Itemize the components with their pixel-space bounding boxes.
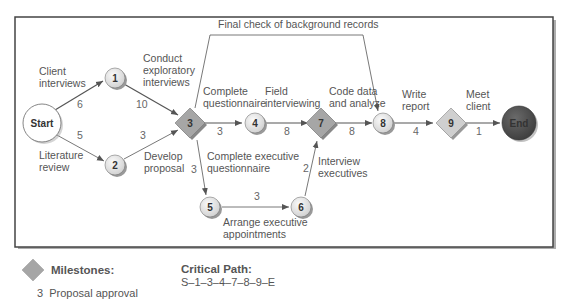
label-develop-proposal-2: proposal (144, 162, 184, 174)
label-literature-review-1: Literature (39, 149, 84, 161)
duration-arrange-exec-appointments: 3 (254, 190, 260, 202)
label-write-report-1: Write (402, 88, 426, 100)
node-5-label: 5 (207, 202, 213, 213)
label-code-data-1: Code data (329, 85, 378, 97)
node-9-label: 9 (448, 118, 454, 129)
label-literature-review-2: review (39, 161, 70, 173)
label-code-data-2: and analyze (329, 97, 386, 109)
label-conduct-exploratory-2: exploratory (143, 64, 196, 76)
duration-complete-questionnaire: 3 (217, 125, 223, 137)
duration-develop-proposal: 3 (140, 129, 146, 141)
duration-client-interviews: 6 (77, 98, 83, 110)
duration-literature-review: 5 (77, 129, 83, 141)
legend-critical-path-title: Critical Path: (181, 263, 252, 275)
legend-milestone-item: 3 Proposal approval (37, 287, 138, 299)
legend-milestones-title: Milestones: (51, 264, 114, 276)
label-field-interviewing-1: Field (265, 85, 288, 97)
label-meet-client-2: client (466, 100, 491, 112)
label-interview-executives-2: executives (318, 167, 368, 179)
node-start-label: Start (31, 118, 54, 129)
label-client-interviews-1: Client (39, 65, 66, 77)
duration-complete-exec-questionnaire: 3 (191, 163, 197, 175)
label-conduct-exploratory-3: interviews (143, 76, 190, 88)
label-complete-exec-questionnaire-1: Complete executive (207, 150, 299, 162)
label-develop-proposal-1: Develop (144, 150, 183, 162)
label-interview-executives-1: Interview (318, 155, 360, 167)
node-2-label: 2 (112, 160, 118, 171)
label-arrange-exec-appointments-2: appointments (223, 228, 286, 240)
label-client-interviews-2: interviews (39, 77, 86, 89)
label-complete-questionnaire-1: Complete (203, 85, 248, 97)
node-4-label: 4 (252, 118, 258, 129)
node-7-label: 7 (318, 118, 324, 129)
label-final-check: Final check of background records (218, 18, 379, 30)
node-3-label: 3 (187, 118, 193, 129)
node-1-label: 1 (112, 73, 118, 84)
duration-write-report: 4 (413, 125, 419, 137)
node-8-label: 8 (380, 118, 386, 129)
node-6-label: 6 (298, 202, 304, 213)
duration-conduct-exploratory: 10 (136, 98, 148, 110)
duration-interview-executives: 2 (303, 162, 309, 174)
label-complete-questionnaire-2: questionnaire (203, 97, 266, 109)
label-arrange-exec-appointments-1: Arrange executive (223, 216, 308, 228)
legend-critical-path-value: S–1–3–4–7–8–9–E (181, 276, 275, 288)
label-conduct-exploratory-1: Conduct (143, 52, 182, 64)
label-meet-client-1: Meet (466, 88, 489, 100)
node-end-label: End (510, 118, 529, 129)
duration-code-data: 8 (349, 125, 355, 137)
duration-meet-client: 1 (476, 125, 482, 137)
label-write-report-2: report (402, 100, 430, 112)
legend: Milestones: 3 Proposal approval Critical… (22, 259, 275, 299)
label-complete-exec-questionnaire-2: questionnaire (207, 162, 270, 174)
label-field-interviewing-2: interviewing (265, 97, 321, 109)
duration-field-interviewing: 8 (284, 125, 290, 137)
milestone-legend-icon (22, 259, 44, 281)
pert-network-diagram: Start 1 2 3 4 5 (0, 0, 566, 304)
